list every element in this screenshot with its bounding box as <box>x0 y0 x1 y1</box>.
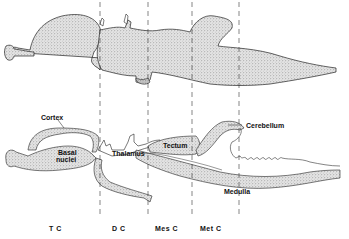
label-tectum: Tectum <box>163 142 187 149</box>
region-label-mes-c: Mes C <box>155 225 178 232</box>
diencephalon-floor <box>94 158 152 202</box>
region-label-met-c: Met C <box>200 225 222 232</box>
cerebellum-lobe <box>196 121 244 156</box>
parietal-stalk-outline <box>124 14 128 24</box>
cortex-leader <box>58 120 64 128</box>
telencephalon-outline <box>8 15 102 71</box>
epiphysis-outline <box>100 18 104 26</box>
label-basal-nuclei-line1: Basal <box>58 149 77 156</box>
olfactory-bulb-outline <box>5 45 35 60</box>
external-view <box>5 14 337 86</box>
choroid-plexus <box>230 128 340 166</box>
region-label-tc: T C <box>49 225 62 232</box>
basal-nuclei-mass <box>6 146 96 171</box>
label-medulla: Medulla <box>224 188 250 195</box>
label-cortex: Cortex <box>41 114 63 121</box>
label-basal-nuclei-line2: nuclei <box>56 156 76 163</box>
label-cerebellum: Cerebellum <box>246 122 284 129</box>
label-thalamus: Thalamus <box>112 150 145 157</box>
region-label-dc: D C <box>112 225 126 232</box>
brain-diagram: Cortex Basal nuclei Thalamus Tectum Cere… <box>0 0 349 239</box>
brainstem-outline <box>97 16 336 86</box>
